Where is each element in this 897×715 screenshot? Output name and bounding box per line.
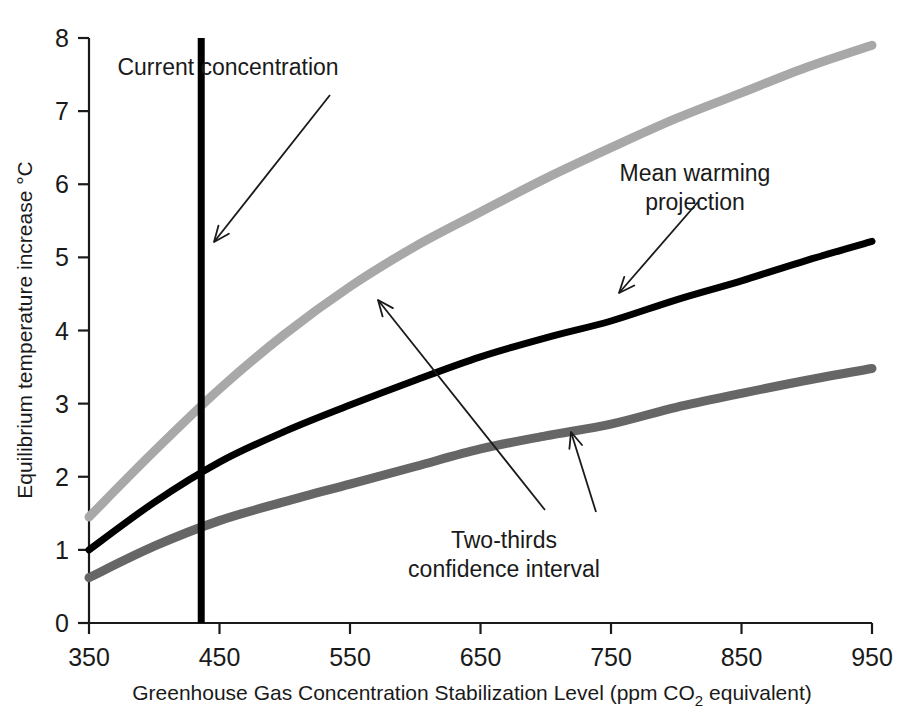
y-tick-label-6: 6 xyxy=(55,170,69,198)
annotation-two-thirds-confidence-interval-leader-line xyxy=(378,300,545,510)
series-group xyxy=(89,45,872,577)
annotation-label-current-concentration: Current concentration xyxy=(117,54,338,80)
x-tick-label-950: 950 xyxy=(851,643,893,671)
annotations-group: Current concentrationMean warmingproject… xyxy=(117,54,770,582)
chart-canvas: 012345678 350450550650750850950 Current … xyxy=(0,0,897,715)
y-tick-label-4: 4 xyxy=(55,317,69,345)
x-tick-label-650: 650 xyxy=(460,643,502,671)
annotation-label-two-thirds-confidence-interval: Two-thirdsconfidence interval xyxy=(408,527,600,582)
x-tick-label-750: 750 xyxy=(590,643,632,671)
x-tick-label-450: 450 xyxy=(199,643,241,671)
y-axis-ticks xyxy=(78,38,89,623)
y-axis-tick-labels: 012345678 xyxy=(55,24,69,637)
y-tick-label-5: 5 xyxy=(55,243,69,271)
x-tick-label-350: 350 xyxy=(68,643,110,671)
y-tick-label-2: 2 xyxy=(55,463,69,491)
y-tick-label-0: 0 xyxy=(55,609,69,637)
y-tick-label-8: 8 xyxy=(55,24,69,52)
x-tick-label-850: 850 xyxy=(721,643,763,671)
annotation-mean-warming-projection-leader-line xyxy=(619,202,698,293)
annotation-current-concentration-leader-line xyxy=(214,95,330,242)
y-axis-title: Equilibrium temperature increase °C xyxy=(13,161,36,499)
x-tick-label-550: 550 xyxy=(329,643,371,671)
annotation-two-thirds-confidence-interval-second-leader-line xyxy=(571,432,596,512)
y-tick-label-3: 3 xyxy=(55,390,69,418)
x-axis-title: Greenhouse Gas Concentration Stabilizati… xyxy=(132,681,812,709)
y-tick-label-7: 7 xyxy=(55,97,69,125)
y-tick-label-1: 1 xyxy=(55,536,69,564)
x-axis-tick-labels: 350450550650750850950 xyxy=(68,643,893,671)
x-axis-ticks xyxy=(89,623,872,634)
chart-figure: 012345678 350450550650750850950 Current … xyxy=(0,0,897,715)
